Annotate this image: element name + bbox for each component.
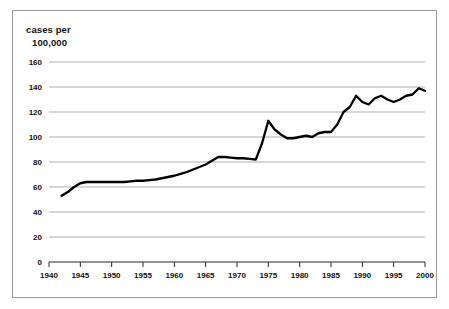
x-tick-label: 1955	[134, 271, 152, 280]
x-tick-label: 1980	[291, 271, 309, 280]
gridlines-group	[49, 62, 425, 237]
y-tick-label: 160	[29, 58, 43, 67]
series-line-cases	[62, 88, 425, 196]
y-tick-label: 60	[33, 183, 42, 192]
y-tick-label: 140	[29, 83, 43, 92]
line-chart-plot: 020406080100120140160 194019451950195519…	[0, 0, 449, 309]
y-tick-label: 0	[38, 258, 43, 267]
x-tick-label: 1965	[197, 271, 215, 280]
y-tick-label: 40	[33, 208, 42, 217]
x-tick-label: 1985	[322, 271, 340, 280]
x-tick-label: 1960	[165, 271, 183, 280]
y-tick-label: 20	[33, 233, 42, 242]
x-tick-label: 1995	[385, 271, 403, 280]
x-tick-label: 1990	[353, 271, 371, 280]
x-tick-label: 2000	[416, 271, 434, 280]
x-tick-label: 1975	[259, 271, 277, 280]
y-tick-label: 80	[33, 158, 42, 167]
x-tick-label: 1950	[103, 271, 121, 280]
y-tick-label: 100	[29, 133, 43, 142]
x-tick-label: 1940	[40, 271, 58, 280]
y-tick-labels-group: 020406080100120140160	[29, 58, 43, 267]
x-tick-label: 1945	[71, 271, 89, 280]
y-tick-label: 120	[29, 108, 43, 117]
chart-figure: cases per 100,000 020406080100120140160 …	[0, 0, 449, 309]
x-tick-labels-group: 1940194519501955196019651970197519801985…	[40, 271, 434, 280]
x-tick-label: 1970	[228, 271, 246, 280]
x-axis-group	[49, 262, 425, 267]
